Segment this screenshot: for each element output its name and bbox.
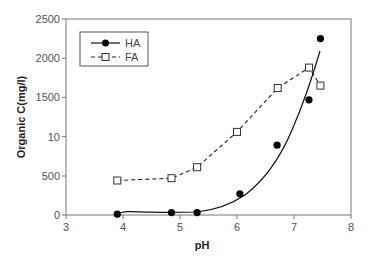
x-tick-label: 5 <box>177 221 183 233</box>
x-tick-label: 8 <box>348 221 354 233</box>
y-axis <box>62 19 66 215</box>
legend-fa-marker <box>102 54 109 61</box>
x-tick-label: 3 <box>63 221 69 233</box>
legend-fa-label: FA <box>125 51 139 63</box>
x-tick-label: 7 <box>291 221 297 233</box>
fa-series-markers <box>114 64 324 184</box>
chart: 0 500 10 1500 2000 2500 3 4 5 6 7 8 pH O… <box>0 0 370 259</box>
x-tick-labels: 3 4 5 6 7 8 <box>63 221 354 233</box>
y-tick-label: 10 <box>48 131 60 143</box>
legend: HA FA <box>80 32 148 66</box>
y-tick-label: 2000 <box>36 52 60 64</box>
y-tick-label: 500 <box>42 170 60 182</box>
legend-ha-marker <box>102 40 109 47</box>
y-tick-labels: 0 500 10 1500 2000 2500 <box>36 13 60 221</box>
ha-series-curve <box>117 51 320 214</box>
x-tick-label: 6 <box>234 221 240 233</box>
x-tick-label: 4 <box>120 221 126 233</box>
legend-ha-label: HA <box>125 37 141 49</box>
y-axis-label: Organic C(mg/l) <box>15 75 27 158</box>
y-tick-label: 0 <box>54 209 60 221</box>
y-tick-label: 1500 <box>36 91 60 103</box>
x-axis <box>66 215 351 219</box>
y-tick-label: 2500 <box>36 13 60 25</box>
fa-series-line <box>117 68 320 181</box>
x-axis-label: pH <box>195 239 210 251</box>
